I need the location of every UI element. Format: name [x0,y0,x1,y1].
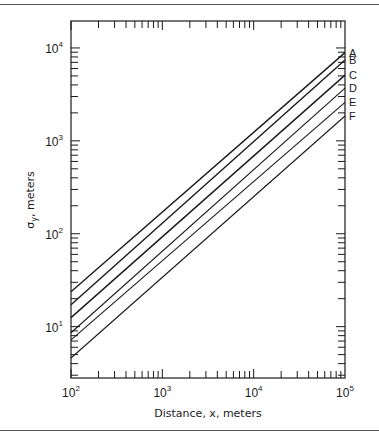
x-tick-label: 102 [62,384,80,400]
curve-label-e: E [349,96,356,108]
y-axis-title: σy, meters [24,171,39,229]
curve-e [71,102,345,340]
curve-label-d: D [349,82,357,94]
x-axis-title: Distance, x, meters [154,407,262,420]
curve-labels: ABCDEF [349,47,357,122]
y-tick-label: 101 [45,319,63,335]
curve-label-b: B [349,54,356,66]
curve-f [71,116,345,358]
y-tick-label: 104 [45,40,63,56]
sigma-y-chart: 102103104105 101102103104 ABCDEF Distanc… [0,0,379,440]
curve-d [71,88,345,333]
curve-c [71,75,345,318]
curve-b [71,60,345,305]
minor-ticks [71,21,345,378]
plot-frame [71,21,345,378]
x-tick-label: 104 [245,384,263,400]
curves [71,53,345,358]
y-tick-labels: 101102103104 [45,40,63,335]
y-tick-label: 102 [45,226,63,242]
y-tick-label: 103 [45,133,63,149]
x-tick-labels: 102103104105 [62,384,354,400]
curve-label-f: F [349,110,356,122]
svg-text:σy, meters: σy, meters [24,171,39,229]
x-tick-label: 105 [336,384,354,400]
curve-label-c: C [349,69,357,81]
x-tick-label: 103 [153,384,171,400]
curve-a [71,53,345,292]
